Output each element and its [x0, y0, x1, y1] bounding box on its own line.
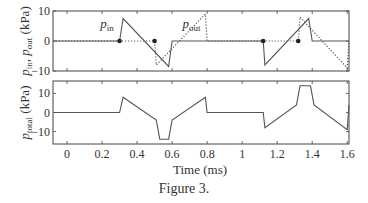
junction-marker [296, 39, 301, 44]
y-tick-label: −10 [31, 64, 50, 78]
series-p-total [53, 86, 349, 139]
x-tick-label: 1.6 [340, 147, 355, 161]
series-p-in [53, 19, 349, 67]
y-tick-label: 0 [44, 106, 50, 120]
y-tick-label: 0 [44, 34, 50, 48]
x-axis-label: Time (ms) [173, 162, 227, 177]
figure: −10010pin, pout (kPa)pinpout 00.20.40.60… [0, 0, 368, 203]
junction-marker [117, 39, 122, 44]
figure-caption: Figure 3. [0, 181, 368, 197]
y-tick-label: 10 [38, 86, 50, 100]
y-tick-label: −10 [31, 125, 50, 139]
y-tick-label: 10 [38, 4, 50, 18]
x-tick-label: 1.4 [305, 147, 320, 161]
bottom-panel-ptotal: 00.20.40.60.811.21.41.6−10010ptotal (kPa… [17, 81, 355, 161]
x-tick-label: 0.8 [200, 147, 215, 161]
y-axis-label: ptotal (kPa) [17, 86, 34, 141]
x-tick-label: 0.2 [95, 147, 110, 161]
junction-marker [261, 39, 266, 44]
series-annotation-p-out: pout [182, 16, 202, 33]
x-tick-label: 0.6 [165, 147, 180, 161]
top-panel-pin-pout: −10010pin, pout (kPa)pinpout [17, 4, 349, 78]
x-tick-label: 1 [239, 147, 245, 161]
x-tick-label: 0 [64, 147, 70, 161]
junction-marker [152, 39, 157, 44]
series-annotation-p-in: pin [99, 16, 114, 33]
y-axis-label: pin, pout (kPa) [17, 6, 34, 76]
x-tick-label: 0.4 [130, 147, 145, 161]
x-tick-label: 1.2 [270, 147, 285, 161]
